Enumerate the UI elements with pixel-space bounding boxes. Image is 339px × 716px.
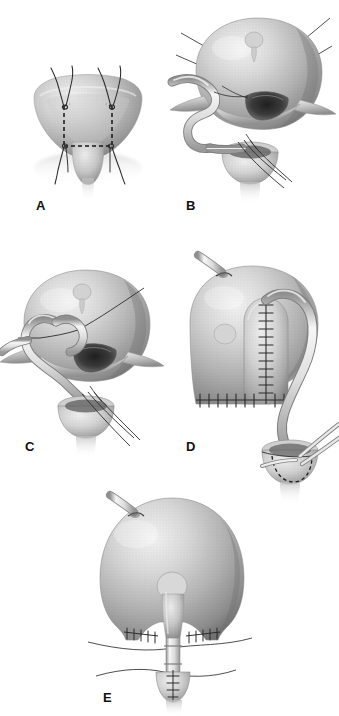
- panel-label-e: E: [103, 691, 112, 705]
- panel-label-a: A: [36, 199, 45, 213]
- panel-e-urethral-catheter: [164, 638, 182, 672]
- panel-label-c: C: [25, 440, 34, 454]
- figure-canvas: A B C D E: [0, 0, 339, 716]
- surgical-illustration: [0, 0, 339, 716]
- panel-label-b: B: [186, 199, 195, 213]
- panel-label-d: D: [186, 440, 195, 454]
